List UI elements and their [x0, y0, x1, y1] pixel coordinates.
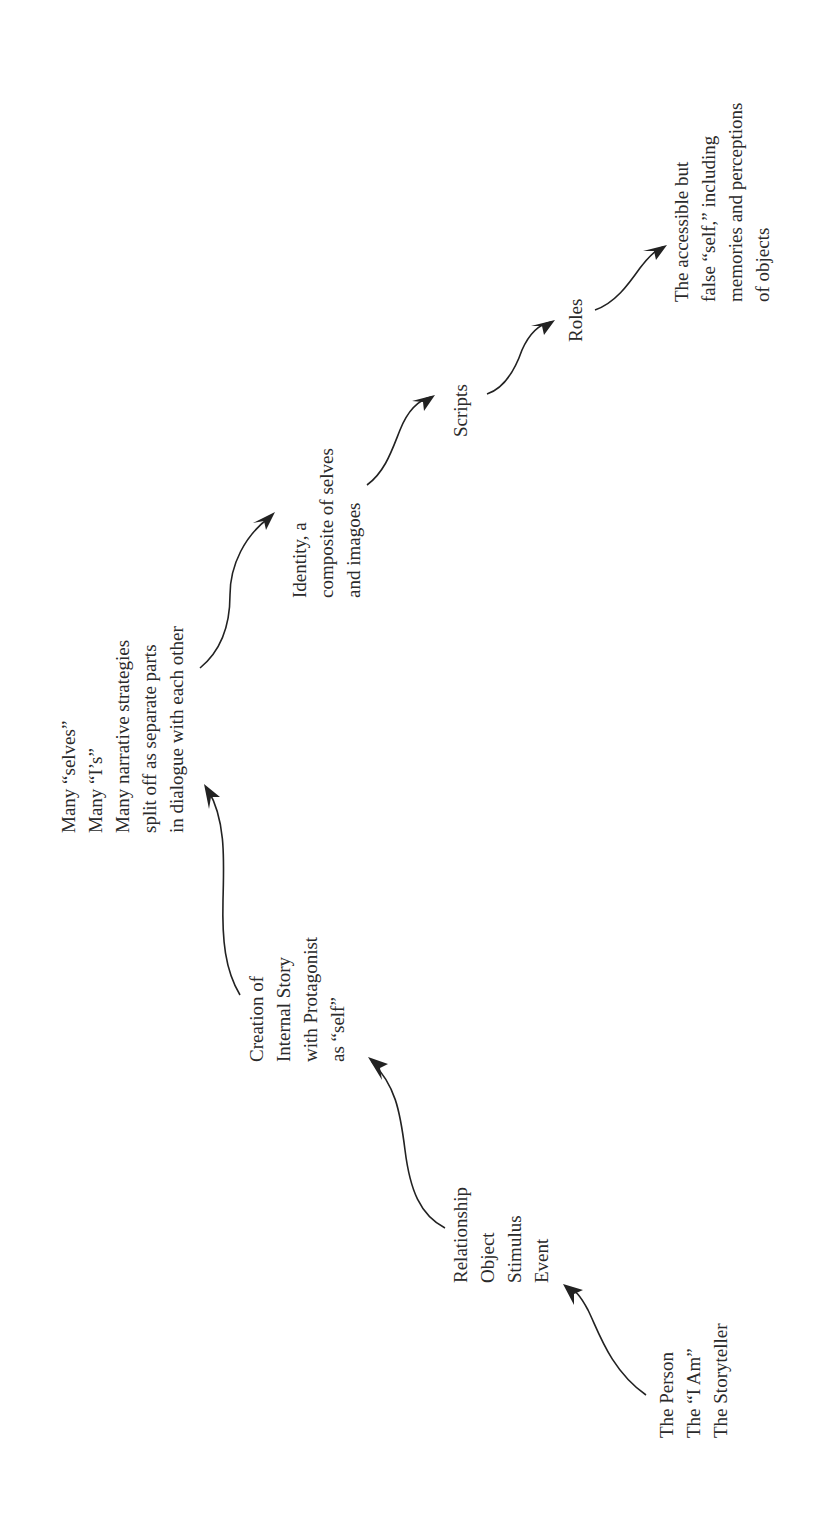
arrow-identity-to-scripts [367, 395, 435, 485]
node-many-line-3: Many narrative strategies [109, 626, 136, 833]
node-roles-line-1: Roles [562, 299, 589, 342]
node-creation-line-2: Internal Story [270, 937, 297, 1062]
arrow-person-to-relationship [563, 1284, 646, 1395]
node-identity: Identity, a composite of selves and imag… [286, 448, 367, 598]
node-relationship-line-1: Relationship [447, 1187, 474, 1283]
arrow-roles-to-accessible [595, 245, 667, 310]
node-accessible-line-4: of objects [749, 103, 776, 302]
node-many-line-2: Many “I’s” [82, 626, 109, 833]
node-identity-line-1: Identity, a [286, 448, 313, 598]
node-relationship: Relationship Object Stimulus Event [447, 1187, 555, 1283]
node-accessible-line-1: The accessible but [668, 103, 695, 302]
node-scripts-line-1: Scripts [447, 384, 474, 437]
node-accessible-line-3: memories and perceptions [722, 103, 749, 302]
arrow-scripts-to-roles [487, 320, 555, 394]
node-relationship-line-2: Object [474, 1187, 501, 1283]
arrow-many-to-identity [200, 512, 275, 668]
node-creation: Creation of Internal Story with Protagon… [243, 937, 351, 1062]
node-many-line-4: split off as separate parts [136, 626, 163, 833]
node-many-line-1: Many “selves” [55, 626, 82, 833]
node-many-line-5: in dialogue with each other [163, 626, 190, 833]
node-accessible-self: The accessible but false “self,” includi… [668, 103, 776, 302]
node-many-selves: Many “selves” Many “I’s” Many narrative … [55, 626, 190, 833]
node-creation-line-3: with Protagonist [297, 937, 324, 1062]
arrow-creation-to-many [204, 784, 240, 995]
node-roles: Roles [562, 299, 589, 342]
node-relationship-line-3: Stimulus [501, 1187, 528, 1283]
node-accessible-line-2: false “self,” including [695, 103, 722, 302]
node-person-line-3: The Storyteller [707, 1324, 734, 1439]
node-creation-line-4: as “self” [324, 937, 351, 1062]
arrow-relationship-to-creation [368, 1057, 445, 1228]
node-identity-line-3: and imagoes [340, 448, 367, 598]
node-person-line-1: The Person [653, 1324, 680, 1439]
node-creation-line-1: Creation of [243, 937, 270, 1062]
node-relationship-line-4: Event [528, 1187, 555, 1283]
node-scripts: Scripts [447, 384, 474, 437]
node-person: The Person The “I Am” The Storyteller [653, 1324, 734, 1439]
node-identity-line-2: composite of selves [313, 448, 340, 598]
node-person-line-2: The “I Am” [680, 1324, 707, 1439]
